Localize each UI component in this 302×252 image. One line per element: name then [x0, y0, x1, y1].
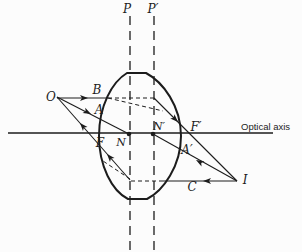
arrowhead-ray-a-prime — [195, 157, 205, 166]
ray-b-internal-path-dashed — [108, 98, 163, 111]
ray-a-label: A — [95, 104, 104, 116]
arrowhead-ray-a — [83, 108, 93, 117]
nodal-point-n-prime-label: N′ — [153, 121, 165, 132]
ray-b-label: B — [93, 84, 102, 96]
image-point-label: I — [243, 174, 248, 186]
ray-b-refracted — [154, 98, 237, 181]
optical-axis-label: Optical axis — [241, 121, 290, 132]
principal-plane-p-prime-label: P′ — [148, 3, 159, 15]
ray-a-prime-label: A′ — [181, 144, 192, 156]
ray-a — [57, 97, 129, 134]
ray-a-prime — [153, 134, 237, 181]
focal-point-f-label: F — [96, 137, 104, 149]
principal-plane-p-label: P — [123, 3, 131, 15]
ray-c-label: C — [187, 181, 196, 193]
focal-point-f-prime-label: F′ — [190, 121, 201, 133]
thick-lens-nodal-points-figure: P P′ O B A F N N′ F′ A′ C I Optical axis — [0, 0, 302, 252]
object-point-label: O — [46, 91, 56, 103]
nodal-point-n-dot — [127, 132, 132, 137]
nodal-point-n-label: N — [116, 137, 126, 148]
lens-outline — [99, 73, 181, 199]
